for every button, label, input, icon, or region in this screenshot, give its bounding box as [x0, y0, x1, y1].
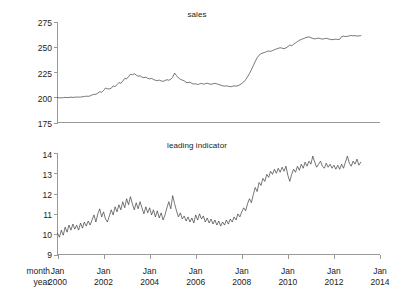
- li-y-tickmarks: [54, 154, 58, 256]
- xtick-label-year: 2014: [360, 277, 396, 287]
- xtick-label-year: 2010: [268, 277, 308, 287]
- leading-indicator-plot-area: [0, 0, 396, 301]
- xtick-label-month: Jan: [268, 266, 308, 276]
- xtick-label-month: Jan: [222, 266, 262, 276]
- xtick-label-month: Jan: [360, 266, 396, 276]
- li-x-tickmarks: [59, 255, 381, 260]
- xtick-label-year: 2000: [38, 277, 78, 287]
- leading-indicator-data-line: [58, 156, 361, 237]
- xtick-label-year: 2012: [314, 277, 354, 287]
- li-axes: [58, 153, 381, 255]
- xtick-label-month: Jan: [84, 266, 124, 276]
- xtick-label-month: Jan: [38, 266, 78, 276]
- xtick-label-year: 2002: [84, 277, 124, 287]
- xtick-label-year: 2004: [130, 277, 170, 287]
- xtick-label-month: Jan: [314, 266, 354, 276]
- xtick-label-month: Jan: [176, 266, 216, 276]
- xtick-label-year: 2006: [176, 277, 216, 287]
- xtick-label-month: Jan: [130, 266, 170, 276]
- figure-canvas: sales 275 250 225 200 175 leading indica…: [0, 0, 396, 301]
- xtick-label-year: 2008: [222, 277, 262, 287]
